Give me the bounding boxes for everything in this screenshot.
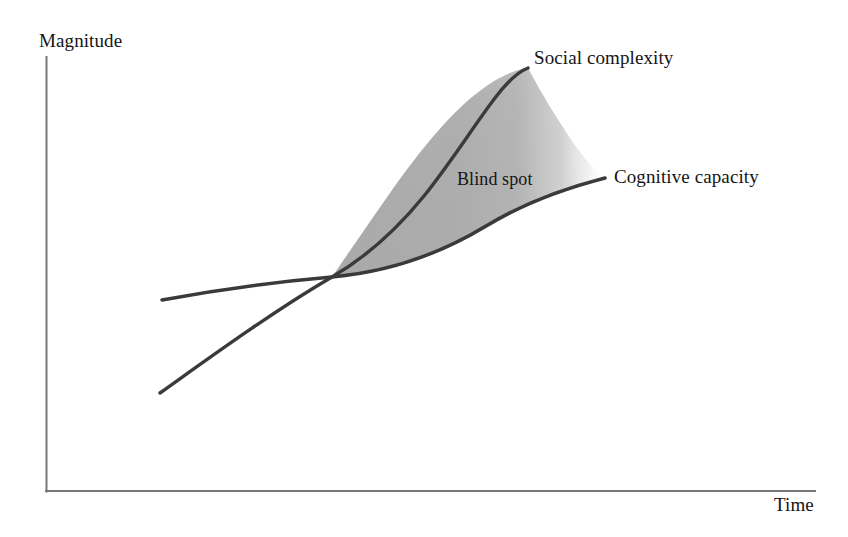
- axes: [46, 57, 815, 492]
- annotation-label-blind-spot: Blind spot: [457, 170, 533, 189]
- chart-canvas: [0, 0, 848, 537]
- series-label-social-complexity: Social complexity: [534, 48, 673, 68]
- chart-figure: Magnitude Time Social complexity Cogniti…: [0, 0, 848, 537]
- series-label-cognitive-capacity: Cognitive capacity: [614, 167, 759, 187]
- y-axis-label: Magnitude: [39, 31, 122, 51]
- x-axis-label: Time: [774, 495, 814, 515]
